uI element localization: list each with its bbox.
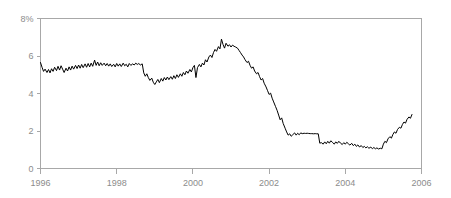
x-tick-label: 2006 (411, 178, 431, 188)
y-tick-label: 0 (28, 164, 33, 174)
x-tick-label: 2002 (259, 178, 279, 188)
y-tick-label: 8% (20, 14, 33, 24)
chart-figure: 02468%199619982000200220042006 (0, 0, 451, 198)
chart-series-group (41, 39, 412, 149)
line-chart-svg: 02468%199619982000200220042006 (0, 0, 451, 198)
chart-axes-group (37, 19, 422, 174)
data-line-rate (41, 39, 412, 149)
chart-tick-labels-group: 02468%199619982000200220042006 (20, 14, 431, 188)
x-tick-label: 2000 (183, 178, 203, 188)
x-tick-label: 2004 (335, 178, 355, 188)
y-tick-label: 4 (28, 89, 33, 99)
x-tick-label: 1996 (30, 178, 50, 188)
x-tick-label: 1998 (107, 178, 127, 188)
y-tick-label: 2 (28, 126, 33, 136)
y-tick-label: 6 (28, 51, 33, 61)
